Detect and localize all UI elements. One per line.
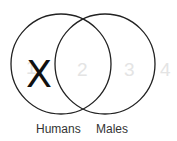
region-number-3: 3 bbox=[124, 59, 135, 81]
circle-males bbox=[55, 14, 155, 114]
set-label-humans: Humans bbox=[36, 122, 81, 136]
region-mark-x: X bbox=[26, 55, 52, 93]
region-number-2: 2 bbox=[77, 59, 88, 81]
set-label-males: Males bbox=[96, 122, 128, 136]
region-number-4: 4 bbox=[160, 59, 171, 81]
